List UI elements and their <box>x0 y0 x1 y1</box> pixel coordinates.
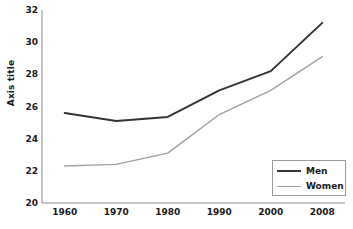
legend-entry-women: Women <box>277 178 344 194</box>
series-line-women <box>65 57 323 166</box>
series-line-men <box>65 23 323 121</box>
line-chart: Axis title 20222426283032 19601970198019… <box>0 0 353 229</box>
legend-swatch-men <box>277 170 301 172</box>
x-tick-label: 1960 <box>40 208 90 217</box>
x-tick-label: 1970 <box>91 208 141 217</box>
x-axis-tick-labels: 196019701980199020002008 <box>0 208 353 224</box>
x-tick-label: 1980 <box>143 208 193 217</box>
x-tick-label: 2008 <box>297 208 347 217</box>
legend-entry-men: Men <box>277 163 327 179</box>
data-series-layer <box>65 23 323 166</box>
legend-label-women: Women <box>306 182 344 191</box>
x-tick-label: 1990 <box>194 208 244 217</box>
legend-label-men: Men <box>306 167 327 176</box>
x-tick-label: 2000 <box>246 208 296 217</box>
legend[interactable]: Men Women <box>272 160 346 196</box>
legend-swatch-women <box>277 186 301 187</box>
